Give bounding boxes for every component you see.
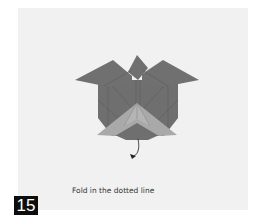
fold-arrow-line: [134, 139, 139, 156]
step-instruction: Fold in the dotted line: [72, 186, 154, 195]
right-flap: [142, 60, 199, 86]
left-flap: [75, 60, 132, 86]
fold-arrow-head: [130, 154, 136, 159]
step-number-badge: 15: [14, 196, 38, 215]
